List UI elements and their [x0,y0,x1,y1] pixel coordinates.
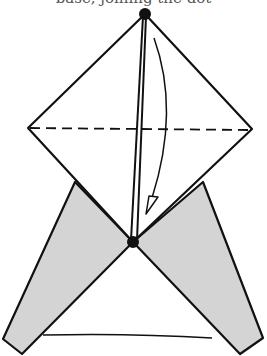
base-edge-line [43,334,212,338]
origami-diagram [0,0,267,356]
bottom-dot [127,236,139,248]
diamond-upper-flap [28,14,252,242]
top-dot [139,8,151,20]
